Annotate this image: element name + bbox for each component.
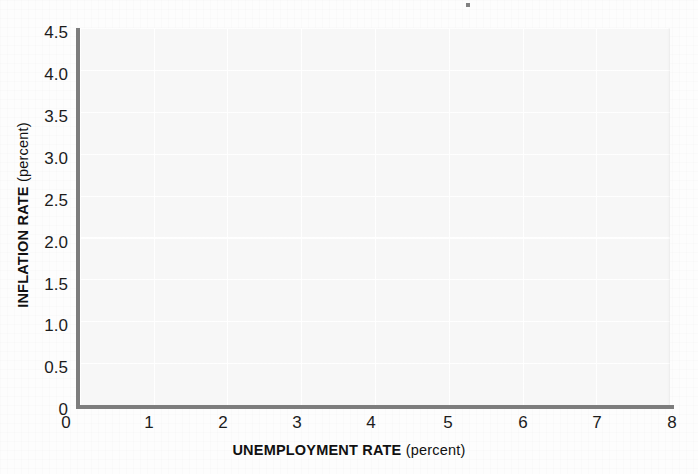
x-tick-label: 3 xyxy=(292,413,301,432)
x-tick-label: 1 xyxy=(144,413,153,432)
x-axis-title-bold: UNEMPLOYMENT RATE xyxy=(232,442,401,458)
y-axis-line xyxy=(76,28,80,409)
x-tick-5: 5 xyxy=(428,414,468,432)
x-tick-label: 8 xyxy=(667,413,676,432)
x-tick-4: 4 xyxy=(351,414,391,432)
y-tick-label: 2.5 xyxy=(44,192,68,209)
x-axis-line xyxy=(76,405,674,409)
y-tick-label: 4.0 xyxy=(44,66,68,83)
y-tick-label: 1.5 xyxy=(44,276,68,293)
x-tick-1: 1 xyxy=(129,414,169,432)
scan-artifact-speck xyxy=(466,3,470,7)
x-tick-0: 0 xyxy=(46,414,86,432)
x-tick-label: 4 xyxy=(366,413,375,432)
grid-lines xyxy=(80,28,670,405)
y-axis-title: INFLATION RATE (percent) xyxy=(15,100,31,330)
x-tick-3: 3 xyxy=(277,414,317,432)
y-axis-title-bold: INFLATION RATE xyxy=(15,186,31,307)
y-axis-title-unit: (percent) xyxy=(15,122,31,182)
x-axis-title: UNEMPLOYMENT RATE (percent) xyxy=(0,442,698,458)
x-tick-2: 2 xyxy=(203,414,243,432)
y-tick-label: 3.5 xyxy=(44,108,68,125)
x-tick-label: 6 xyxy=(518,413,527,432)
y-tick-label: 0.5 xyxy=(44,359,68,376)
x-tick-8: 8 xyxy=(652,414,692,432)
x-axis-title-unit: (percent) xyxy=(406,442,466,458)
x-tick-6: 6 xyxy=(503,414,543,432)
y-tick-label: 2.0 xyxy=(44,234,68,251)
chart-figure: 4.5 4.0 3.5 3.0 2.5 2.0 1.5 1.0 0.5 0 0 … xyxy=(0,0,698,474)
y-tick-label: 4.5 xyxy=(44,24,68,41)
y-tick-label: 1.0 xyxy=(44,317,68,334)
x-tick-label: 2 xyxy=(218,413,227,432)
y-tick-label: 3.0 xyxy=(44,150,68,167)
plot-area xyxy=(80,28,670,405)
x-tick-label: 7 xyxy=(592,413,601,432)
x-tick-7: 7 xyxy=(577,414,617,432)
x-tick-label: 0 xyxy=(61,413,70,432)
x-tick-label: 5 xyxy=(443,413,452,432)
